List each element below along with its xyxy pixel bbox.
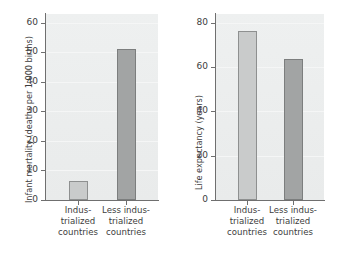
figure-container: Infant mortality (deaths per 1,000 birth…	[0, 0, 337, 255]
gridline	[216, 111, 324, 112]
bar	[284, 59, 303, 200]
y-axis-tick	[41, 82, 45, 83]
gridline	[216, 23, 324, 24]
y-axis-tick	[41, 111, 45, 112]
gridline	[46, 23, 158, 24]
y-axis-tick-label: 60	[14, 18, 38, 27]
plot-area	[46, 14, 158, 200]
x-axis-category-label: Less indus- trialized countries	[92, 205, 160, 239]
gridline	[46, 111, 158, 112]
x-axis-line	[45, 200, 159, 201]
y-axis-tick-label: 20	[184, 151, 208, 160]
y-axis-tick-label: 50	[14, 47, 38, 56]
gridline	[216, 156, 324, 157]
gridline	[46, 52, 158, 53]
y-axis-tick	[211, 200, 215, 201]
gridline	[46, 170, 158, 171]
x-axis-category-label: Less indus- trialized countries	[259, 205, 327, 239]
y-axis-tick-label: 20	[14, 136, 38, 145]
y-axis-tick-label: 10	[14, 165, 38, 174]
chart-panel-infant-mortality: Infant mortality (deaths per 1,000 birth…	[0, 0, 168, 255]
chart-panel-life-expectancy: Life expectancy (years) 020406080 Indus-…	[168, 0, 336, 255]
y-axis-tick	[41, 52, 45, 53]
y-axis-title: Life expectancy (years)	[192, 0, 206, 190]
y-axis-tick	[41, 200, 45, 201]
bar	[69, 181, 88, 200]
y-axis-tick	[211, 23, 215, 24]
y-axis-tick-label: 60	[184, 62, 208, 71]
gridline	[46, 141, 158, 142]
y-axis-tick	[41, 23, 45, 24]
y-axis-tick-label: 0	[14, 195, 38, 204]
gridline	[216, 67, 324, 68]
bar	[238, 31, 257, 200]
x-axis-line	[215, 200, 325, 201]
y-axis-tick-label: 30	[14, 106, 38, 115]
y-axis-tick	[41, 141, 45, 142]
y-axis-tick	[211, 156, 215, 157]
bar	[117, 49, 136, 200]
y-axis-line	[45, 13, 46, 201]
y-axis-tick-label: 40	[14, 77, 38, 86]
gridline	[46, 82, 158, 83]
y-axis-tick-label: 0	[184, 195, 208, 204]
y-axis-tick-label: 80	[184, 18, 208, 27]
y-axis-tick-label: 40	[184, 106, 208, 115]
y-axis-tick	[211, 67, 215, 68]
y-axis-line	[215, 13, 216, 201]
y-axis-tick	[211, 111, 215, 112]
plot-area	[216, 14, 324, 200]
y-axis-tick	[41, 170, 45, 171]
